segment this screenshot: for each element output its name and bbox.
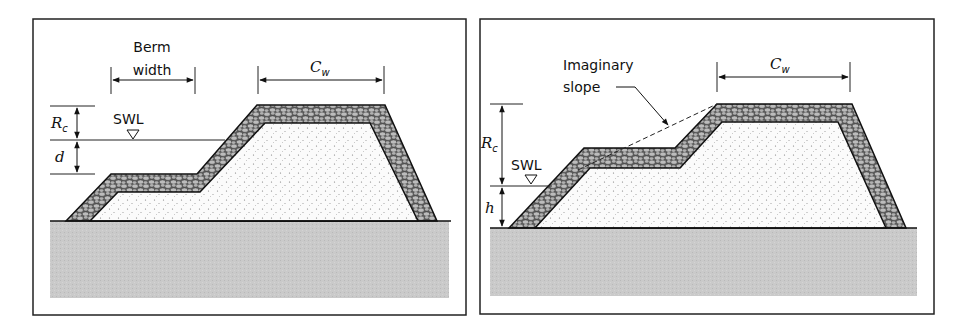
breakwater-diagram: Rc d SWL Berm width Cw Imaginary slope R… xyxy=(0,0,967,331)
right-panel: Imaginary slope Rc h SWL Cw xyxy=(480,19,934,314)
left-d-label: d xyxy=(55,148,65,166)
right-h-label: h xyxy=(485,199,495,217)
left-berm-label-line2: width xyxy=(133,62,172,78)
right-imaginary-label-line1: Imaginary xyxy=(563,57,634,73)
left-panel: Rc d SWL Berm width Cw xyxy=(33,19,466,315)
right-imaginary-label-line2: slope xyxy=(563,79,600,95)
right-seabed xyxy=(490,228,917,296)
right-swl-label: SWL xyxy=(511,157,542,173)
left-swl-label: SWL xyxy=(113,111,144,127)
left-seabed xyxy=(50,221,449,298)
left-berm-label-line1: Berm xyxy=(133,39,170,55)
